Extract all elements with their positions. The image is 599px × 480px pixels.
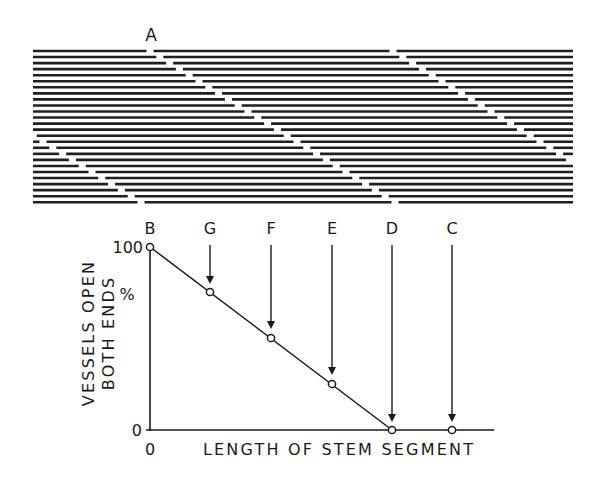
point-label-d: D (386, 219, 398, 238)
line-plot: B G F E D C (79, 219, 494, 459)
vessel-diagram-svg: A B G F E D C (0, 0, 599, 480)
figure: A B G F E D C (0, 0, 599, 480)
data-point-c (448, 426, 455, 433)
x-axis-title: LENGTH OF STEM SEGMENT (203, 440, 475, 459)
arrow-d-icon (388, 245, 396, 422)
percent-sign: % (119, 285, 134, 304)
point-label-c: C (446, 219, 457, 238)
data-point-f (267, 334, 274, 341)
data-point-b (146, 243, 153, 250)
y-axis-title-line1: VESSELS OPEN (79, 260, 98, 406)
data-point-e (328, 380, 335, 387)
point-label-f: F (266, 219, 275, 238)
x-tick-0: 0 (145, 440, 155, 459)
y-tick-0: 0 (132, 421, 142, 440)
point-label-g: G (204, 219, 216, 238)
arrow-e-icon (328, 245, 336, 375)
vessel-lines-panel (33, 51, 573, 202)
label-a: A (145, 25, 157, 45)
point-label-e: E (327, 219, 337, 238)
data-point-d (388, 426, 395, 433)
y-axis-title-line2: BOTH ENDS (99, 276, 118, 391)
arrow-f-icon (267, 245, 275, 329)
y-tick-100: 100 (112, 238, 143, 257)
point-label-b: B (145, 219, 156, 238)
arrow-g-icon (206, 245, 214, 284)
data-point-g (206, 288, 213, 295)
arrow-c-icon (448, 245, 456, 422)
